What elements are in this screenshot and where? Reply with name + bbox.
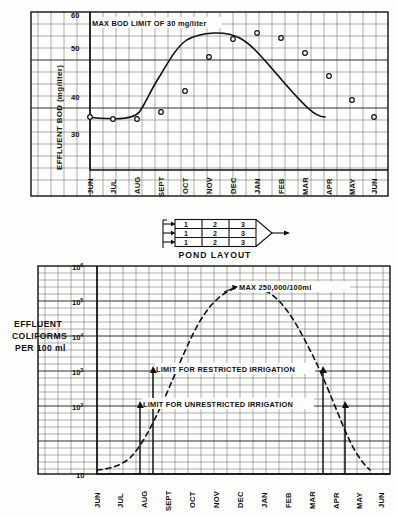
bod-grid-major: [31, 12, 388, 196]
bod-point-oct: [183, 89, 188, 94]
bod-month-0: JUN: [86, 178, 95, 194]
pond-cell-r2c0: 1: [184, 239, 188, 246]
pond-outlet-funnel: [256, 220, 272, 247]
coliform-ytick-2: 102: [72, 402, 83, 413]
coliform-peak-arrowhead: [232, 285, 238, 290]
bod-curve: [90, 33, 325, 119]
bod-ytick-1: 50: [71, 44, 79, 53]
bod-month-6: DEC: [229, 177, 238, 194]
coliform-unrestricted-label: LIMIT FOR UNRESTRICTED IRRIGATION: [143, 400, 293, 409]
coliform-month-0: JUN: [93, 492, 102, 508]
bod-month-8: FEB: [277, 178, 286, 194]
pond-cell-r2c2: 3: [241, 239, 245, 246]
bod-point-jun: [88, 115, 93, 120]
bod-grid-minor: [31, 12, 388, 196]
coliform-month-7: JAN: [260, 492, 269, 508]
coliform-month-9: MAR: [308, 491, 317, 509]
bod-point-apr: [327, 74, 332, 79]
pond-cell-r1c1: 2: [213, 230, 217, 237]
bod-point-jul: [111, 117, 116, 122]
bod-month-3: SEPT: [157, 176, 166, 197]
coliform-ytick-3: 103: [72, 367, 83, 378]
coliform-peak-label: MAX 250,000/100ml: [239, 283, 311, 292]
bod-chart: 60 50 40 30 EFFLUENT BOD (mg/liter) MAX …: [31, 11, 388, 197]
coliform-ylabel-line-1: COLIFORMS: [12, 331, 67, 341]
bod-ytick-0: 60: [71, 11, 79, 20]
bod-ytick-3: 30: [71, 130, 79, 139]
pond-cell-grid: 1 2 3 1 2 3 1 2 3: [175, 220, 256, 247]
bod-month-2: AUG: [133, 177, 142, 194]
coliform-month-12: JUN: [377, 492, 386, 508]
bod-month-4: OCT: [181, 177, 190, 194]
coliform-month-5: NOV: [212, 490, 221, 508]
bod-limit-annotation: MAX BOD LIMIT OF 30 mg/liter: [92, 19, 207, 28]
pond-cell-r1c2: 3: [241, 230, 245, 237]
bod-axes: [90, 12, 388, 170]
coliform-month-8: FEB: [284, 492, 293, 508]
pond-inlet-arrowhead-2: [171, 231, 175, 236]
bod-y-axis-label: EFFLUENT BOD (mg/liter): [55, 65, 64, 170]
pond-cell-r0c1: 2: [213, 221, 217, 228]
coliform-month-4: OCT: [188, 491, 197, 508]
coliform-month-6: DEC: [236, 491, 245, 508]
bod-point-mar: [303, 51, 308, 56]
coliform-y-ticks: 106 105 104 103 102 10: [72, 262, 84, 481]
coliform-ytick-5: 105: [72, 297, 83, 308]
bod-month-7: JAN: [253, 178, 262, 194]
bod-point-dec: [231, 37, 236, 42]
pond-cell-r2c1: 2: [213, 239, 217, 246]
coliform-ytick-4: 104: [72, 332, 83, 343]
bod-point-aug: [135, 117, 140, 122]
coliform-month-1: JUL: [116, 493, 125, 508]
bod-point-nov: [207, 55, 212, 60]
coliform-restricted-arrow-right: [320, 366, 327, 373]
bod-point-feb: [279, 36, 284, 41]
bod-month-11: MAY: [348, 178, 357, 195]
coliform-ylabel-line-2: PER 100 ml: [15, 343, 66, 353]
coliform-ylabel-line-0: EFFLUENT: [14, 319, 62, 329]
bod-month-9: MAR: [301, 177, 310, 195]
bod-point-sept: [159, 110, 164, 115]
bod-point-jun2: [372, 115, 377, 120]
pond-inlet-arrowhead-3: [171, 240, 175, 245]
bod-plot-frame: [31, 12, 388, 196]
bod-month-12: JUN: [370, 178, 379, 194]
coliform-ytick-1: 10: [76, 471, 84, 480]
bod-x-ticks: JUN JUL AUG SEPT OCT NOV DEC JAN FEB MAR…: [86, 176, 379, 197]
bod-point-jan: [255, 31, 260, 36]
coliform-x-ticks: JUN JUL AUG SEPT OCT NOV DEC JAN FEB MAR…: [93, 490, 386, 511]
coliform-chart: 106 105 104 103 102 10 EFFLUENT COLIFORM…: [12, 262, 390, 512]
figure-svg: 60 50 40 30 EFFLUENT BOD (mg/liter) MAX …: [0, 0, 397, 517]
coliform-month-11: MAY: [355, 492, 364, 509]
coliform-month-10: APR: [332, 492, 341, 509]
pond-cell-r0c2: 3: [241, 221, 245, 228]
pond-layout-caption: POND LAYOUT: [179, 250, 252, 260]
bod-ytick-2: 40: [71, 93, 79, 102]
figure-canvas: 60 50 40 30 EFFLUENT BOD (mg/liter) MAX …: [0, 0, 397, 517]
pond-cell-r1c0: 1: [184, 230, 188, 237]
pond-cell-r0c0: 1: [184, 221, 188, 228]
bod-month-5: NOV: [205, 176, 214, 194]
pond-layout-diagram: 1 2 3 1 2 3 1 2 3 POND LAYOUT: [163, 220, 290, 261]
bod-month-1: JUL: [109, 179, 118, 194]
pond-inlet-arrowhead-1: [171, 222, 175, 227]
coliform-restricted-label: LIMIT FOR RESTRICTED IRRIGATION: [156, 365, 295, 374]
coliform-unrestricted-arrow-right: [342, 401, 349, 408]
coliform-ytick-6: 106: [72, 262, 83, 273]
coliform-month-2: AUG: [140, 491, 149, 508]
pond-outlet-arrowhead: [284, 231, 290, 236]
bod-point-may: [350, 98, 355, 103]
bod-month-10: APR: [325, 178, 334, 195]
coliform-y-axis-label: EFFLUENT COLIFORMS PER 100 ml: [12, 319, 67, 353]
coliform-month-3: SEPT: [164, 490, 173, 511]
